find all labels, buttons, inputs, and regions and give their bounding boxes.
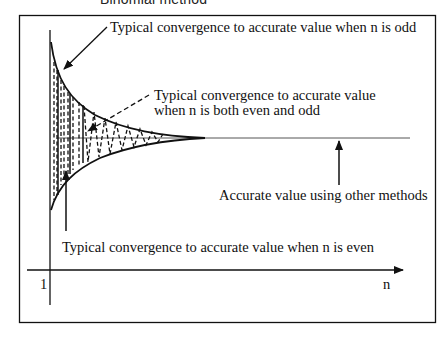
x-axis-label: n — [383, 277, 390, 292]
lower-envelope-curve — [51, 138, 205, 210]
label-both-line1: Typical convergence to accurate value — [154, 88, 376, 103]
x-axis-start-label: 1 — [40, 277, 47, 292]
label-odd: Typical convergence to accurate value wh… — [110, 20, 416, 35]
odd-arrow — [64, 27, 107, 69]
label-both-line2: when n is both even and odd — [154, 103, 320, 118]
label-even: Typical convergence to accurate value wh… — [62, 240, 374, 255]
convergence-diagram — [0, 0, 447, 337]
label-accurate: Accurate value using other methods — [219, 188, 428, 203]
both-arrow — [88, 95, 149, 131]
